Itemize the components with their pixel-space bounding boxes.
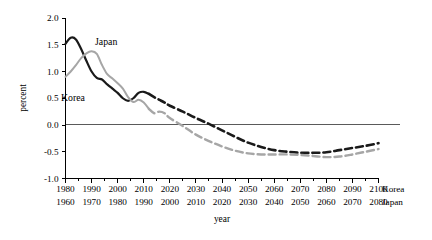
x-tick-label: 2050 — [291, 197, 310, 207]
y-tick-label: 1.5 — [47, 40, 59, 50]
x-tick-label: 1980 — [56, 184, 75, 194]
series-korea — [66, 37, 379, 152]
x-tick-label: 2000 — [108, 184, 127, 194]
x-tick-labels-japan: 1960197019801990200020102020203020402050… — [56, 197, 388, 207]
series-annotations: JapanKorea — [61, 36, 117, 103]
chart-svg: 2.01.51.00.50.0-0.5-1.0 percent 19801990… — [0, 0, 432, 240]
series-korea-projected — [149, 94, 379, 153]
series-label-korea: Korea — [61, 92, 86, 103]
x-tick-label: 1960 — [56, 197, 75, 207]
x-tick-label: 2060 — [317, 197, 336, 207]
series-japan — [66, 51, 379, 157]
x-tick-label: 2030 — [239, 197, 258, 207]
x-tick-label: 1990 — [82, 184, 101, 194]
x-tick-label: 2020 — [213, 197, 232, 207]
y-tick-label: 0.0 — [47, 120, 59, 130]
series-label-japan: Japan — [95, 36, 117, 47]
y-tick-label: 2.0 — [47, 13, 59, 23]
x-tick-label: 2030 — [187, 184, 206, 194]
x-tick-label: 2070 — [291, 184, 310, 194]
x-tick-label: 2070 — [343, 197, 362, 207]
series-layer — [66, 37, 379, 157]
x-axis-row-tag-korea: Korea — [382, 184, 404, 194]
x-tick-label: 2010 — [135, 184, 154, 194]
x-tick-label: 2050 — [239, 184, 258, 194]
y-tick-label: -1.0 — [44, 174, 59, 184]
x-axis-group: 1980199020002010202020302040205020602070… — [56, 179, 404, 208]
x-tick-label: 1980 — [108, 197, 127, 207]
chart-figure: 2.01.51.00.50.0-0.5-1.0 percent 19801990… — [0, 0, 432, 240]
y-tick-label: -0.5 — [44, 147, 59, 157]
x-tick-label: 2060 — [265, 184, 284, 194]
x-axis-row-tag-japan: Japan — [382, 197, 403, 207]
y-tick-label: 1.0 — [47, 67, 59, 77]
x-axis-title: year — [214, 214, 231, 224]
y-axis-title: percent — [18, 84, 28, 112]
x-tick-label: 2010 — [187, 197, 206, 207]
x-tick-label: 2040 — [213, 184, 232, 194]
x-tick-labels-korea: 1980199020002010202020302040205020602070… — [56, 184, 388, 194]
y-tick-label: 0.5 — [47, 93, 59, 103]
x-tick-label: 2090 — [343, 184, 362, 194]
x-tick-label: 2080 — [317, 184, 336, 194]
x-tick-label: 1990 — [135, 197, 154, 207]
x-tick-label: 2040 — [265, 197, 284, 207]
y-tick-labels: 2.01.51.00.50.0-0.5-1.0 — [44, 13, 59, 184]
x-tick-label: 1970 — [82, 197, 101, 207]
x-tick-label: 2020 — [161, 184, 180, 194]
x-tick-marks — [66, 179, 379, 184]
x-tick-label: 2000 — [161, 197, 180, 207]
